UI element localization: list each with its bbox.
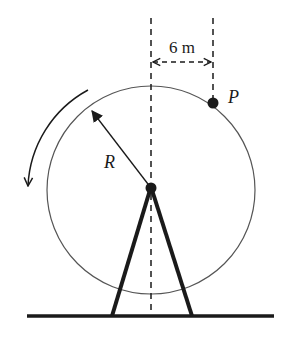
radius-arrow — [92, 111, 151, 188]
stand-left-leg — [112, 190, 150, 316]
point-p-label: P — [227, 87, 239, 107]
distance-label: 6 m — [169, 38, 195, 57]
rotation-direction-arrow — [28, 90, 88, 186]
wheel-hub — [146, 183, 157, 194]
stand-right-leg — [152, 190, 192, 316]
ferris-wheel-diagram: 6 m P R — [0, 0, 287, 341]
radius-label: R — [103, 152, 115, 172]
point-p — [208, 98, 219, 109]
